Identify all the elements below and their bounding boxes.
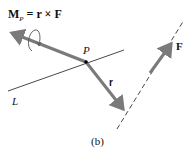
- r-vector: [86, 62, 123, 109]
- point-P: [84, 60, 88, 64]
- label-F: F: [176, 40, 183, 52]
- line-L: [8, 50, 124, 91]
- label-L: L: [12, 95, 18, 107]
- F-vector: [150, 44, 171, 73]
- line-of-action: [117, 20, 184, 129]
- label-r: r: [109, 77, 113, 88]
- moment-vector: [12, 33, 86, 62]
- moment-diagram: MP = r × F P r F L (b): [0, 0, 188, 151]
- label-P: P: [83, 44, 90, 56]
- moment-equation: MP = r × F: [8, 7, 62, 23]
- caption: (b): [91, 135, 104, 147]
